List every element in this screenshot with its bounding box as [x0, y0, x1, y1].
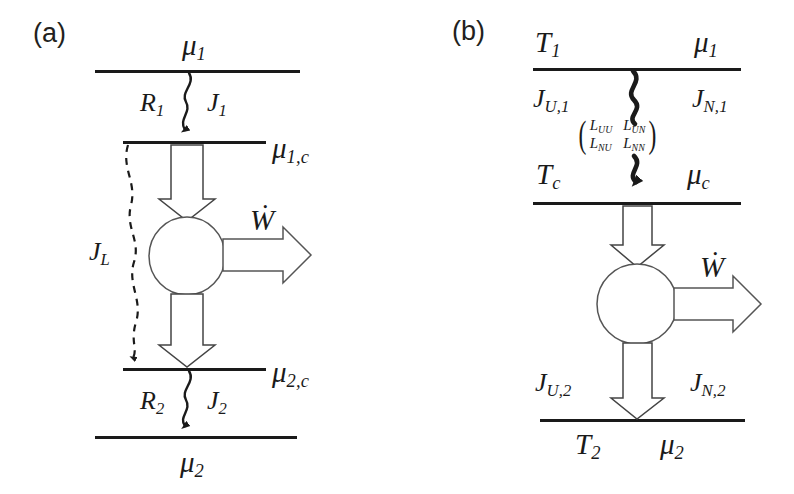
panel-a-label: (a) [33, 20, 66, 47]
label-temp-contact: Tc [536, 160, 561, 193]
wavy-arrow-coupling-lower [633, 156, 637, 182]
onsager-matrix: ( LUU LUN LNU LNN ) [576, 118, 659, 152]
label-flux-2: J2 [207, 388, 227, 417]
matrix-left-paren: ( [578, 120, 586, 150]
diagram-graphics [0, 0, 794, 494]
block-arrow-work-b [674, 276, 761, 332]
label-mu-hot: μ1 [694, 28, 718, 61]
engine-circle-a [149, 217, 225, 295]
wavy-arrow-flux-1 [183, 73, 191, 130]
label-resistance-2: R2 [140, 388, 164, 417]
matrix-cell-lnn: LNN [623, 136, 645, 153]
label-work-b: Ẇ [700, 253, 724, 282]
label-leak-flux: JL [89, 239, 110, 268]
dashed-wavy-arrow-leak-flux [126, 145, 138, 358]
label-mu-1c-contact: μ1,c [272, 134, 309, 167]
label-temp-cold: T2 [575, 430, 601, 463]
label-temp-hot: T1 [535, 28, 561, 61]
block-arrow-outflow-b [611, 343, 664, 419]
label-heat-flux-1: JU,1 [533, 86, 570, 115]
panel-b-label: (b) [452, 18, 485, 45]
label-particle-flux-2: JN,2 [690, 370, 726, 399]
label-mu-2c-contact: μ2,c [272, 358, 309, 391]
block-arrow-inflow-b [611, 206, 664, 267]
figure-canvas: (a) (b) μ1 R1 J1 μ1,c JL Ẇ μ2,c R2 J2 μ… [0, 0, 794, 494]
wavy-arrow-flux-2 [183, 371, 191, 426]
label-mu-1-reservoir: μ1 [182, 31, 206, 64]
engine-circle-b [597, 264, 677, 344]
matrix-right-paren: ) [649, 120, 657, 150]
label-resistance-1: R1 [140, 90, 164, 119]
wavy-arrow-coupling-upper [631, 71, 637, 124]
block-arrow-inflow-a [159, 145, 215, 221]
label-heat-flux-2: JU,2 [535, 370, 572, 399]
label-particle-flux-1: JN,1 [692, 86, 728, 115]
label-work-a: Ẇ [250, 206, 274, 235]
matrix-cell-lun: LUN [623, 118, 645, 135]
label-mu-contact: μc [687, 160, 710, 193]
matrix-cell-luu: LUU [590, 118, 613, 135]
block-arrow-outflow-a [159, 294, 215, 367]
label-mu-cold: μ2 [660, 430, 684, 463]
matrix-cell-lnu: LNU [590, 136, 613, 153]
label-flux-1: J1 [207, 90, 227, 119]
label-mu-2-reservoir: μ2 [180, 448, 204, 481]
